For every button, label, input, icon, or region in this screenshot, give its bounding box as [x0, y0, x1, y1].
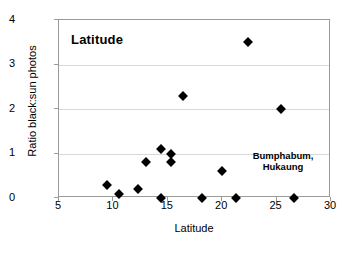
- gridline-y-2: [59, 109, 329, 110]
- x-tick-mark-20: [221, 197, 222, 201]
- y-tick-label-2: 2: [0, 103, 15, 114]
- plot-area: Latitude Bumphabum, Hukaung: [58, 19, 330, 197]
- x-tick-label-10: 10: [97, 200, 127, 211]
- data-point: [217, 166, 227, 176]
- annotation-line-1: Bumphabum,: [239, 150, 327, 161]
- x-tick-label-25: 25: [261, 200, 291, 211]
- y-tick-label-1: 1: [0, 147, 15, 158]
- data-point: [141, 157, 151, 167]
- data-point: [178, 91, 188, 101]
- x-tick-label-15: 15: [152, 200, 182, 211]
- data-point: [197, 193, 207, 203]
- y-axis-title: Ratio black:sun photos: [26, 11, 38, 191]
- y-tick-label-4: 4: [0, 14, 15, 25]
- x-tick-mark-25: [276, 197, 277, 201]
- data-point: [276, 104, 286, 114]
- x-axis-title: Latitude: [58, 222, 330, 234]
- data-point: [133, 184, 143, 194]
- y-tick-label-3: 3: [0, 58, 15, 69]
- gridline-y-3: [59, 65, 329, 66]
- chart-title: Latitude: [71, 32, 123, 47]
- scatter-chart-figure: Ratio black:sun photos 4 3 2 1 0 5 10 15…: [0, 0, 349, 253]
- x-tick-mark-15: [167, 197, 168, 201]
- data-point: [243, 37, 253, 47]
- data-point: [102, 180, 112, 190]
- data-point: [156, 144, 166, 154]
- annotation-line-2: Hukaung: [239, 161, 327, 172]
- x-tick-mark-30: [330, 197, 331, 201]
- x-tick-mark-5: [58, 197, 59, 201]
- x-tick-label-30: 30: [315, 200, 345, 211]
- x-tick-mark-10: [112, 197, 113, 201]
- x-tick-label-5: 5: [43, 200, 73, 211]
- data-point: [166, 157, 176, 167]
- data-point: [114, 189, 124, 199]
- annotation-bumphabum-hukaung: Bumphabum, Hukaung: [239, 150, 327, 172]
- y-tick-label-0: 0: [0, 192, 15, 203]
- x-tick-label-20: 20: [206, 200, 236, 211]
